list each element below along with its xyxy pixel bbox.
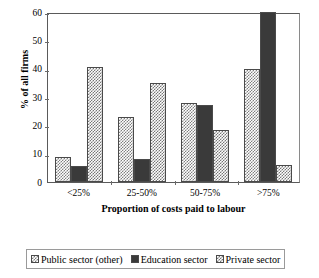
legend-label: Education sector <box>141 254 208 265</box>
x-tick-label: 50-75% <box>174 187 237 199</box>
bar-private-sector <box>150 83 166 182</box>
bar-private-sector <box>87 67 103 182</box>
bar-group-50-75 <box>174 14 237 182</box>
bar-group-25-50 <box>111 14 174 182</box>
legend-swatch-icon <box>216 255 224 263</box>
bar-private-sector <box>276 165 292 182</box>
x-tick-label: >75% <box>237 187 300 199</box>
bar-education-sector <box>134 159 150 182</box>
bar-groups <box>48 14 299 182</box>
x-axis-title: Proportion of costs paid to labour <box>47 203 300 214</box>
bar-group-gt75 <box>236 14 299 182</box>
bar-public-sector-other <box>181 103 197 182</box>
y-tick-label: 40 <box>18 65 42 74</box>
bar-public-sector-other <box>244 69 260 182</box>
bar-education-sector <box>197 105 213 182</box>
bar-chart: % of all firms 0 10 20 30 40 50 60 <box>0 0 319 278</box>
legend-item-private-sector: Private sector <box>216 254 281 265</box>
legend-label: Private sector <box>226 254 281 265</box>
legend-item-public-sector-other: Public sector (other) <box>31 254 123 265</box>
bar-education-sector <box>71 166 87 182</box>
legend-swatch-icon <box>131 255 139 263</box>
y-tick-label: 30 <box>18 94 42 103</box>
x-tick-label: 25-50% <box>110 187 173 199</box>
legend-swatch-icon <box>31 255 39 263</box>
bar-public-sector-other <box>55 157 71 183</box>
bar-education-sector <box>260 12 276 182</box>
y-axis-tick-labels: 0 10 20 30 40 50 60 <box>18 13 42 183</box>
y-tick-label: 50 <box>18 37 42 46</box>
bar-private-sector <box>213 130 229 182</box>
x-tick-label: <25% <box>47 187 110 199</box>
bar-public-sector-other <box>118 117 134 182</box>
legend-item-education-sector: Education sector <box>131 254 208 265</box>
plot-area <box>47 13 300 183</box>
y-tick-label: 10 <box>18 150 42 159</box>
y-tick-label: 0 <box>18 179 42 188</box>
bar-group-lt25 <box>48 14 111 182</box>
y-tick-label: 60 <box>18 9 42 18</box>
x-axis-tick-labels: <25% 25-50% 50-75% >75% <box>47 187 300 199</box>
chart-legend: Public sector (other) Education sector P… <box>26 249 285 269</box>
y-tick-label: 20 <box>18 122 42 131</box>
legend-label: Public sector (other) <box>41 254 123 265</box>
